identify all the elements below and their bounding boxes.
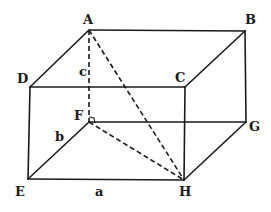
edge-BC	[185, 31, 245, 87]
vertex-label-a: A	[82, 12, 94, 27]
dashed-edge-FH	[89, 122, 184, 180]
edge-label-c: c	[79, 64, 87, 79]
edge-HG	[184, 122, 246, 180]
edge-BG	[245, 31, 246, 122]
edge-EH	[28, 179, 184, 180]
edge-DE	[28, 87, 30, 179]
vertex-label-d: D	[17, 71, 28, 86]
vertex-label-g: G	[249, 119, 260, 134]
rectangular-box-svg: ABCDEFGH abc	[0, 0, 271, 212]
vertex-label-h: H	[179, 184, 191, 199]
edge-AB	[89, 30, 245, 31]
edge-CH	[184, 87, 185, 180]
box-diagram: ABCDEFGH abc	[0, 0, 271, 212]
vertex-label-c: C	[175, 70, 185, 85]
vertex-label-b: B	[245, 12, 256, 27]
edge-label-b: b	[55, 129, 64, 144]
dashed-edges	[89, 30, 184, 180]
vertex-label-e: E	[15, 184, 25, 199]
edge-label-a: a	[95, 184, 104, 199]
dashed-edge-AH	[89, 30, 184, 180]
vertex-label-f: F	[74, 108, 84, 123]
